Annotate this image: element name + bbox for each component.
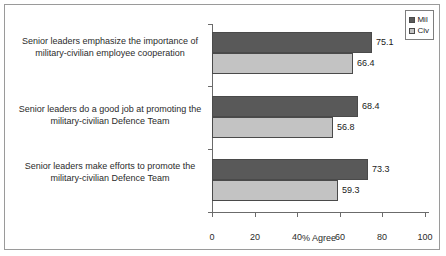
legend-swatch-civ-icon <box>409 28 415 34</box>
bar-civ-1[interactable] <box>212 117 333 138</box>
value-tick-100 <box>425 213 426 217</box>
value-tick-60 <box>340 213 341 217</box>
legend-item-mil[interactable]: Mil <box>409 14 429 25</box>
bar-value-mil-1: 68.4 <box>362 101 380 112</box>
plot-area: 0 20 40 60 80 100 75.1 66.4 68.4 56.8 73… <box>208 20 430 216</box>
category-label-2: Senior leaders make efforts to promote t… <box>15 160 205 184</box>
bar-value-civ-1: 56.8 <box>337 122 355 133</box>
category-axis-line <box>212 212 429 213</box>
value-tick-40 <box>297 213 298 217</box>
legend-label-mil: Mil <box>417 15 427 24</box>
category-label-1-line-1: military-civilian Defence Team <box>15 115 205 127</box>
category-label-1-line-0: Senior leaders do a good job at promotin… <box>15 103 205 115</box>
category-tick-top <box>208 24 213 25</box>
legend-item-civ[interactable]: Civ <box>409 25 429 36</box>
category-label-2-line-1: military-civilian Defence Team <box>15 172 205 184</box>
axis-title: % Agree <box>208 233 430 244</box>
category-label-2-line-0: Senior leaders make efforts to promote t… <box>15 160 205 172</box>
legend-swatch-mil-icon <box>409 17 415 23</box>
value-tick-80 <box>382 213 383 217</box>
category-label-0-line-0: Senior leaders emphasize the importance … <box>15 35 205 47</box>
bar-mil-1[interactable] <box>212 96 358 117</box>
value-tick-20 <box>255 213 256 217</box>
legend-label-civ: Civ <box>417 26 429 35</box>
category-tick-1 <box>208 149 213 150</box>
category-label-0: Senior leaders emphasize the importance … <box>15 35 205 59</box>
bar-value-civ-2: 59.3 <box>342 185 360 196</box>
chart-frame: Senior leaders emphasize the importance … <box>4 4 440 250</box>
bar-mil-0[interactable] <box>212 32 372 53</box>
category-tick-0 <box>208 86 213 87</box>
category-label-0-line-1: military-civilian employee cooperation <box>15 47 205 59</box>
value-tick-0 <box>212 213 213 217</box>
bar-civ-0[interactable] <box>212 53 353 74</box>
bar-value-mil-2: 73.3 <box>372 164 390 175</box>
legend: Mil Civ <box>405 10 434 40</box>
bar-value-civ-0: 66.4 <box>357 58 375 69</box>
bar-value-mil-0: 75.1 <box>376 37 394 48</box>
category-label-1: Senior leaders do a good job at promotin… <box>15 103 205 127</box>
bar-mil-2[interactable] <box>212 159 368 180</box>
bar-civ-2[interactable] <box>212 180 338 201</box>
